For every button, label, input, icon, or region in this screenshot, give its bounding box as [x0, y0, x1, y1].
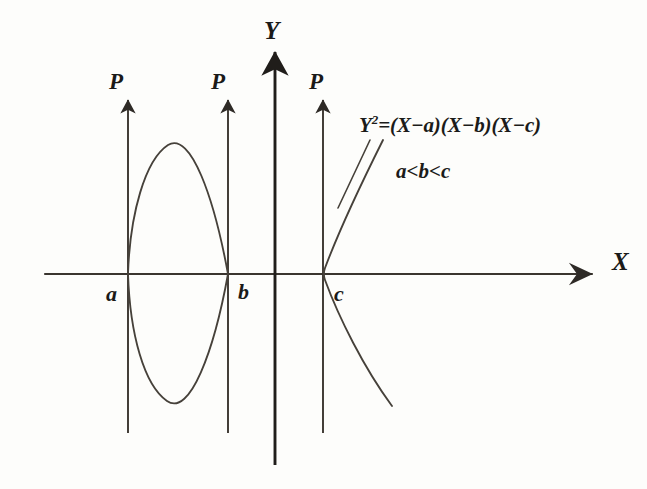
root-ordering-condition: a<b<c	[396, 161, 450, 182]
root-label-b: b	[238, 281, 249, 303]
p-label-a: P	[109, 70, 123, 93]
leader-line-stroke	[338, 140, 370, 208]
p-label-b: P	[211, 70, 225, 93]
equation-leader-line	[338, 140, 370, 208]
figure-canvas	[0, 0, 647, 489]
root-label-a: a	[106, 283, 117, 305]
x-axis-label: X	[612, 249, 629, 274]
equation-variable: Y	[359, 113, 372, 137]
root-label-c: c	[334, 283, 344, 305]
equation-right-side: =(X−a)(X−b)(X−c)	[378, 113, 541, 137]
curve-equation: Y2=(X−a)(X−b)(X−c)	[359, 115, 541, 136]
elliptic-curve-figure: Y X P P P a b c Y2=(X−a)(X−b)(X−c) a<b<c	[0, 0, 647, 489]
p-label-c: P	[309, 70, 323, 93]
y-axis-label: Y	[264, 18, 279, 43]
